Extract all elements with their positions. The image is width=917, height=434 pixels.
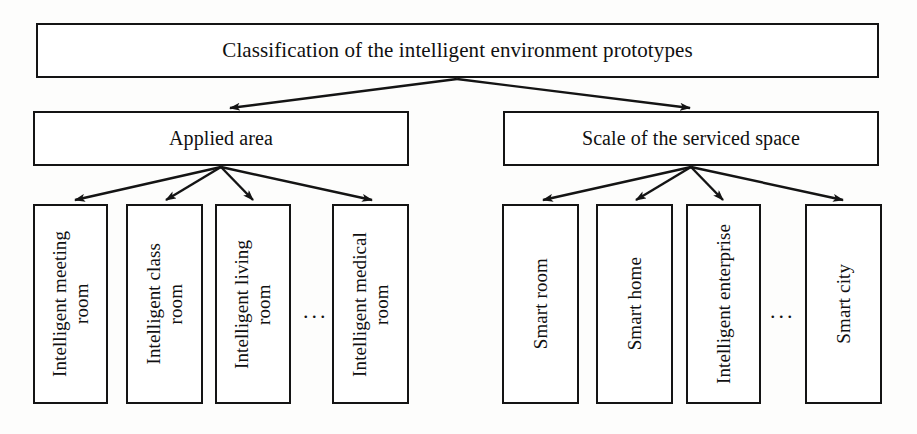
node-label: Intelligent medical room	[349, 232, 393, 377]
edge-applied-area-to-meeting-room	[75, 167, 221, 200]
node-applied-area[interactable]: Applied area	[33, 111, 409, 166]
edge-scale-space-to-smart-room	[543, 167, 691, 200]
edge-applied-area-to-medical-room	[221, 167, 372, 200]
node-label: Smart city	[833, 264, 855, 344]
node-label: Smart home	[624, 257, 646, 350]
node-smart-room[interactable]: Smart room	[502, 204, 579, 404]
node-label: Smart room	[530, 258, 552, 349]
node-label: Scale of the serviced space	[582, 127, 800, 149]
ellipsis-right: ...	[770, 300, 796, 322]
node-intelligent-meeting-room[interactable]: Intelligent meeting room	[33, 204, 108, 404]
edge-scale-space-to-smart-home	[636, 167, 691, 200]
node-intelligent-enterprise[interactable]: Intelligent enterprise	[686, 204, 761, 404]
node-classification-root[interactable]: Classification of the intelligent enviro…	[36, 23, 879, 78]
node-intelligent-class-room[interactable]: Intelligent class room	[126, 204, 203, 404]
diagram-canvas: Classification of the intelligent enviro…	[0, 0, 917, 434]
node-label: Intelligent class room	[143, 243, 187, 364]
node-intelligent-living-room[interactable]: Intelligent living room	[215, 204, 291, 404]
edge-scale-space-to-intelligent-enterprise	[691, 167, 723, 200]
node-smart-home[interactable]: Smart home	[596, 204, 673, 404]
node-label: Classification of the intelligent enviro…	[222, 39, 692, 63]
edge-applied-area-to-class-room	[166, 167, 221, 200]
edge-applied-area-to-living-room	[221, 167, 253, 200]
edge-scale-space-to-smart-city	[691, 167, 843, 200]
ellipsis-left: ...	[303, 300, 329, 322]
node-scale-of-serviced-space[interactable]: Scale of the serviced space	[503, 111, 879, 166]
node-label: Intelligent living room	[231, 240, 275, 369]
node-label: Intelligent meeting room	[49, 231, 93, 377]
node-intelligent-medical-room[interactable]: Intelligent medical room	[332, 204, 409, 404]
node-label: Applied area	[169, 127, 273, 149]
edge-root-to-applied-area	[230, 79, 457, 108]
edge-root-to-scale-space	[457, 79, 690, 108]
node-smart-city[interactable]: Smart city	[805, 204, 882, 404]
node-label: Intelligent enterprise	[713, 224, 735, 384]
